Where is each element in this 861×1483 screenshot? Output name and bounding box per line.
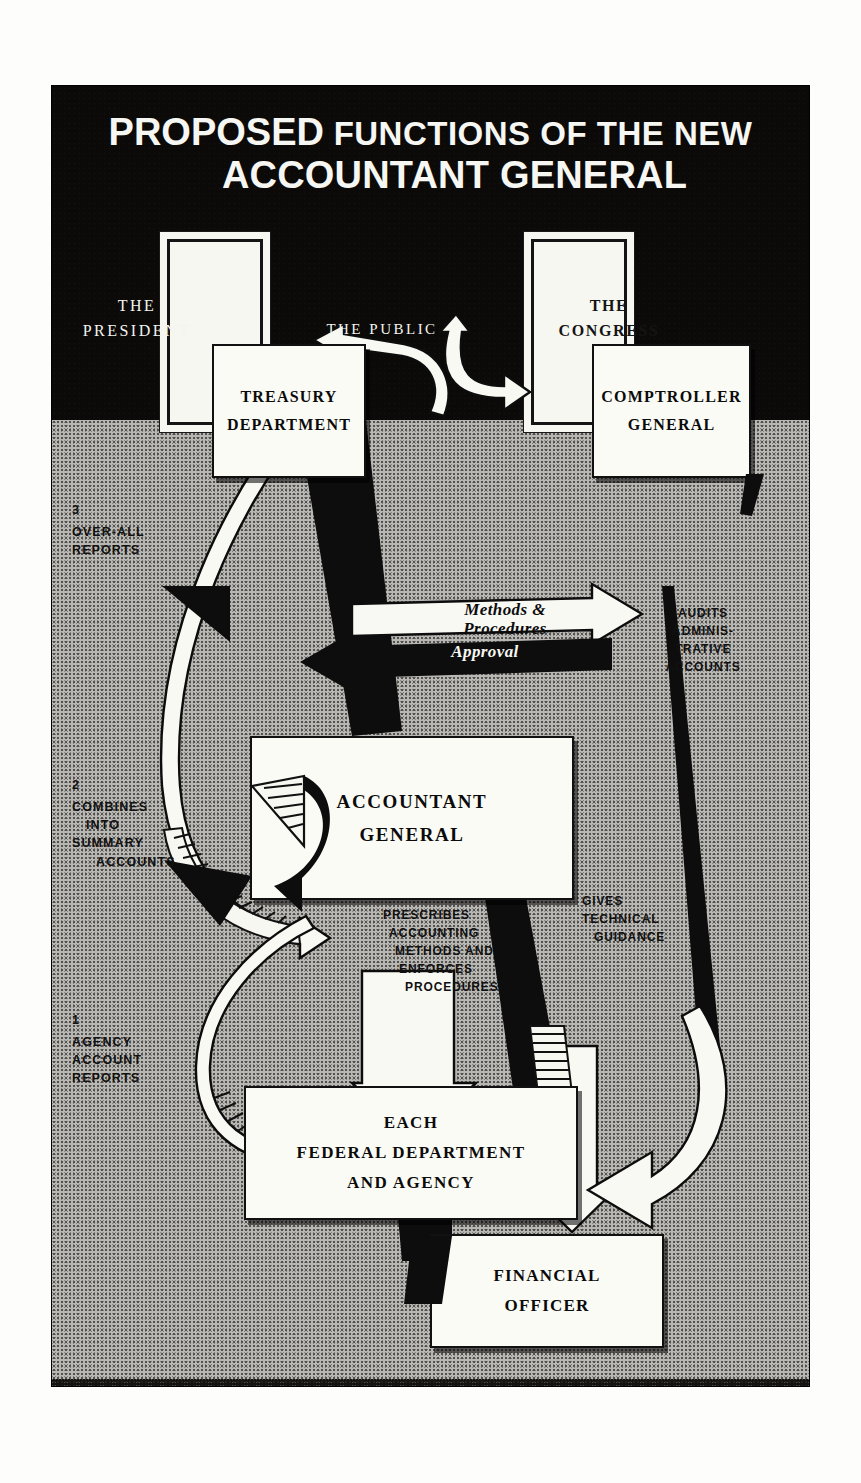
audits-line-2: ADMINIS- — [638, 622, 768, 640]
guidance-line-1: GIVES — [582, 892, 722, 910]
text-gives-technical-guidance: GIVES TECHNICAL GUIDANCE — [582, 892, 722, 946]
poster-title: PROPOSED FUNCTIONS OF THE NEW ACCOUNTANT… — [52, 112, 809, 197]
poster-canvas: PROPOSED FUNCTIONS OF THE NEW ACCOUNTANT… — [52, 86, 809, 1386]
text-audits-administrative-accounts: AUDITS ADMINIS- TRATIVE ACCOUNTS — [638, 604, 768, 676]
audits-line-4: ACCOUNTS — [638, 658, 768, 676]
guidance-line-2: TECHNICAL — [582, 910, 722, 928]
approval-text: Approval — [400, 642, 570, 661]
title-line-1-rest: FUNCTIONS OF THE NEW — [334, 115, 753, 152]
prescribes-line-1: PRESCRIBES — [377, 906, 527, 924]
methods-procedures-line-2: Procedures — [410, 619, 600, 638]
officer-shadow-wedge — [404, 1236, 452, 1304]
methods-procedures-line-1: Methods & — [410, 600, 600, 619]
audits-line-3: TRATIVE — [638, 640, 768, 658]
title-line-2: ACCOUNTANT GENERAL — [52, 155, 809, 197]
prescribes-line-2: ACCOUNTING — [377, 924, 527, 942]
foreground-accent-layer — [52, 86, 809, 1386]
text-prescribes-accounting: PRESCRIBES ACCOUNTING METHODS AND ENFORC… — [377, 906, 527, 996]
accountant-inbound-arrowhead — [252, 776, 330, 912]
guidance-line-3: GUIDANCE — [582, 928, 722, 946]
title-emphasis: PROPOSED — [109, 111, 324, 153]
title-line-1: PROPOSED FUNCTIONS OF THE NEW — [52, 112, 809, 153]
banner-methods-procedures: Methods & Procedures — [410, 600, 600, 638]
banner-approval: Approval — [400, 642, 570, 661]
prescribes-line-4: ENFORCES — [377, 960, 527, 978]
audits-line-1: AUDITS — [638, 604, 768, 622]
prescribes-line-5: PROCEDURES — [377, 978, 527, 996]
comptroller-base-shadow — [740, 474, 764, 516]
prescribes-line-3: METHODS AND — [377, 942, 527, 960]
